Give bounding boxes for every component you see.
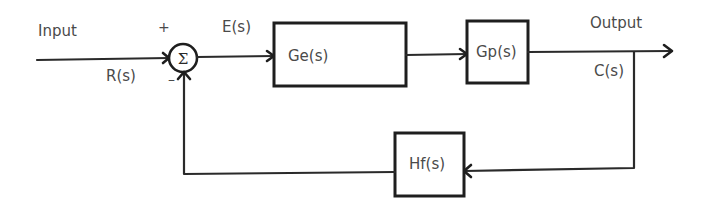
- feedback-label: Hf(s): [409, 155, 445, 173]
- controlled-signal-label: C(s): [594, 62, 624, 80]
- control-signal-line: [406, 54, 467, 55]
- controller-label: Ge(s): [288, 47, 328, 65]
- plant-label: Gp(s): [476, 43, 517, 61]
- error-signal-line: [197, 56, 274, 57]
- diagram-svg: Σ Ge(s) Gp(s) Hf(s) Input R(s) + – E(s) …: [0, 0, 709, 212]
- reference-signal-label: R(s): [106, 67, 136, 85]
- block-diagram: Σ Ge(s) Gp(s) Hf(s) Input R(s) + – E(s) …: [0, 0, 709, 212]
- output-label: Output: [590, 14, 642, 32]
- input-label: Input: [38, 22, 77, 40]
- error-signal-label: E(s): [222, 18, 251, 36]
- plus-sign: +: [158, 19, 170, 35]
- minus-sign: –: [168, 71, 175, 87]
- input-signal-line: [37, 58, 169, 60]
- output-signal-line: [528, 51, 671, 52]
- sigma-icon: Σ: [178, 50, 189, 68]
